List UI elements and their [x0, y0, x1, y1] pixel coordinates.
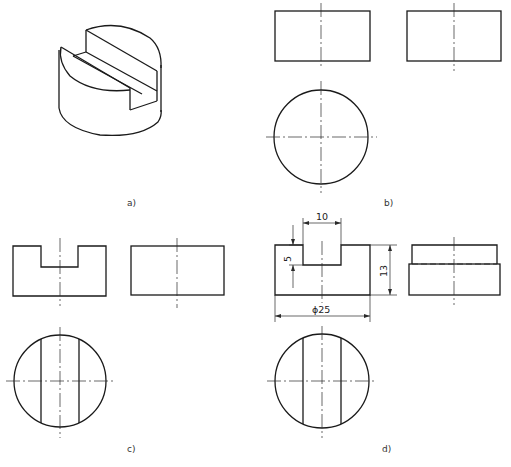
dim-diameter: ϕ25 — [312, 304, 330, 315]
d-front-view — [275, 245, 370, 295]
panel-label-b: b) — [384, 198, 393, 208]
c-front-view — [13, 246, 106, 296]
panel-c-views — [6, 238, 224, 438]
d-side-view-upper — [412, 245, 497, 264]
dim-slot-width: 10 — [316, 211, 328, 222]
panel-a-isometric — [59, 26, 161, 136]
panel-b-views — [266, 3, 501, 193]
dim-height: 13 — [378, 265, 389, 277]
d-side-view-lower — [409, 264, 500, 295]
panel-label-d: d) — [382, 444, 391, 454]
technical-drawing: a) b) c) — [0, 0, 511, 467]
panel-label-c: c) — [127, 444, 135, 454]
panel-label-a: a) — [127, 198, 136, 208]
c-side-view — [131, 246, 224, 295]
b-front-view — [275, 11, 370, 61]
panel-d-views — [267, 218, 500, 438]
dim-slot-depth: 5 — [282, 256, 293, 262]
